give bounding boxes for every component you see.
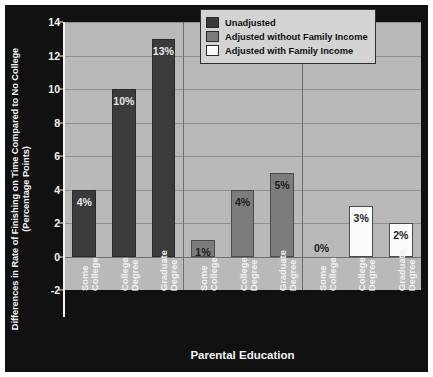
y-axis-title-line1: Differences in Rate of Finishing on Time… — [10, 47, 20, 329]
legend-swatch — [206, 17, 219, 28]
x-axis-ticks: SomeCollegeCollegeDegreeGraduateDegreeSo… — [65, 291, 421, 349]
chart-figure: Differences in Rate of Finishing on Time… — [5, 5, 428, 372]
x-tick-label-line1: Some — [318, 266, 328, 291]
x-tick-label-line2: College — [328, 257, 338, 291]
legend-label: Unadjusted — [225, 18, 276, 28]
bar-value-label: 1% — [195, 246, 210, 258]
bar-value-label: 4% — [77, 196, 92, 208]
y-axis-title-line2: (Percentage Points) — [21, 146, 31, 231]
x-tick-label-line2: Degree — [407, 259, 417, 291]
legend-item: Adjusted without Family Income — [206, 30, 368, 43]
x-tick-label-line2: Degree — [130, 259, 140, 291]
legend-swatch — [206, 45, 219, 56]
x-tick-label-line2: Degree — [288, 259, 298, 291]
legend-item: Unadjusted — [206, 16, 368, 29]
x-tick-label-line2: Degree — [367, 259, 377, 291]
x-tick-label-line1: Graduate — [159, 250, 169, 291]
x-tick-label-line2: College — [90, 257, 100, 291]
legend-swatch — [206, 31, 219, 42]
bar-value-label: 10% — [113, 95, 134, 107]
x-tick-label-line1: College — [239, 257, 249, 291]
x-tick-label-line2: Degree — [249, 259, 259, 291]
legend-label: Adjusted with Family Income — [225, 46, 353, 56]
x-tick-label-line1: Some — [199, 266, 209, 291]
legend-label: Adjusted without Family Income — [225, 32, 368, 42]
y-axis-ticks: -202468101214 — [39, 5, 63, 372]
x-tick-label-line1: Graduate — [278, 250, 288, 291]
bar-value-label: 3% — [354, 212, 369, 224]
x-tick-label-line2: College — [209, 257, 219, 291]
bar-value-label: 5% — [274, 179, 289, 191]
bar-value-label: 4% — [235, 196, 250, 208]
group-separator — [183, 22, 184, 290]
y-axis-title: Differences in Rate of Finishing on Time… — [5, 5, 39, 372]
chart-legend: UnadjustedAdjusted without Family Income… — [200, 9, 376, 64]
x-tick-label-line2: Degree — [169, 259, 179, 291]
bar-value-label: 2% — [393, 229, 408, 241]
x-tick-label-line1: Some — [80, 266, 90, 291]
legend-item: Adjusted with Family Income — [206, 44, 368, 57]
x-tick-label-line1: Graduate — [397, 250, 407, 291]
x-axis-title: Parental Education — [65, 349, 421, 361]
x-tick-label-line1: College — [120, 257, 130, 291]
x-tick-label-line1: College — [357, 257, 367, 291]
bar — [152, 39, 176, 257]
bar — [112, 89, 136, 257]
bar-value-label: 13% — [153, 45, 174, 57]
bar-value-label: 0% — [314, 242, 329, 254]
